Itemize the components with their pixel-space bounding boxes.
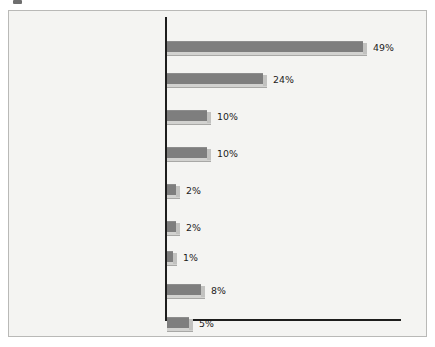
bar-front-face (167, 158, 211, 162)
bar-side-face (201, 286, 205, 297)
bar-value-label: 49% (373, 42, 394, 53)
bar-value-label: 5% (199, 318, 214, 329)
bar-front-face (167, 295, 205, 299)
bar (167, 147, 207, 158)
bar-value-label: 1% (183, 252, 198, 263)
bar-value-label: 8% (211, 285, 226, 296)
bar-side-face (263, 75, 267, 86)
bar-side-face (207, 149, 211, 160)
bar-value-label: 2% (186, 222, 201, 233)
bar-front-face (167, 121, 211, 125)
bar (167, 221, 176, 232)
bar-side-face (173, 253, 177, 264)
bar-value-label: 10% (217, 148, 238, 159)
bar-side-face (176, 223, 180, 234)
bar (167, 41, 363, 52)
bar-front-face (167, 84, 267, 88)
chart-frame: Beliefs that living together waswrong/Re… (8, 10, 427, 337)
bar-value-label: 24% (273, 74, 294, 85)
bar-value-label: 10% (217, 111, 238, 122)
bar (167, 251, 173, 262)
bar (167, 110, 207, 121)
plot-area: Beliefs that living together waswrong/Re… (9, 11, 426, 336)
bar-side-face (176, 186, 180, 197)
bar-chart-figure: Beliefs that living together waswrong/Re… (0, 0, 435, 347)
bar (167, 317, 189, 328)
bar (167, 284, 201, 295)
bar-side-face (207, 112, 211, 123)
bar-value-label: 2% (186, 185, 201, 196)
bar (167, 184, 176, 195)
bar-side-face (363, 43, 367, 54)
bar-side-face (189, 319, 193, 330)
y-axis-line (165, 17, 167, 321)
bar (167, 73, 263, 84)
page-artifact-mark (13, 0, 22, 4)
bar-front-face (167, 52, 367, 56)
